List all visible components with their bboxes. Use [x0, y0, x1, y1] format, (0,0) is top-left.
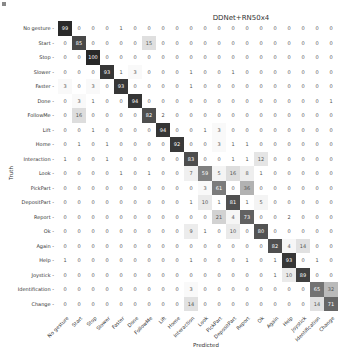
matrix-cell: 0	[226, 94, 240, 109]
matrix-cell: 0	[240, 50, 254, 65]
row-label: Change -	[31, 297, 54, 312]
matrix-cell: 0	[86, 65, 100, 80]
matrix-cell: 0	[142, 297, 156, 312]
matrix-cell: 0	[142, 123, 156, 138]
matrix-cell: 0	[198, 152, 212, 167]
matrix-cell: 2	[282, 210, 296, 225]
matrix-cell: 0	[72, 21, 86, 36]
matrix-cell: 0	[198, 210, 212, 225]
matrix-cell: 0	[240, 268, 254, 283]
matrix-cell: 0	[254, 181, 268, 196]
matrix-cell: 0	[86, 166, 100, 181]
matrix-cell: 0	[226, 123, 240, 138]
matrix-cell: 0	[86, 137, 100, 152]
matrix-cell: 3	[212, 137, 226, 152]
matrix-cell: 0	[72, 253, 86, 268]
matrix-cell: 0	[156, 94, 170, 109]
matrix-cell: 0	[72, 268, 86, 283]
matrix-cell: 0	[170, 108, 184, 123]
matrix-cell: 1	[184, 79, 198, 94]
row-label: Home -	[36, 137, 54, 152]
row-label: Identification -	[18, 282, 54, 297]
row-label: Interaction -	[23, 152, 54, 167]
matrix-cell: 0	[156, 239, 170, 254]
matrix-cell: 0	[198, 65, 212, 80]
matrix-cell: 0	[198, 253, 212, 268]
matrix-cell: 1	[240, 137, 254, 152]
matrix-cell: 0	[170, 195, 184, 210]
matrix-cell: 0	[212, 50, 226, 65]
matrix-cell: 0	[142, 137, 156, 152]
matrix-cell: 0	[212, 253, 226, 268]
matrix-cell: 0	[212, 36, 226, 51]
matrix-cell: 0	[128, 195, 142, 210]
row-label: Slower -	[34, 65, 54, 80]
matrix-cell: 0	[72, 123, 86, 138]
matrix-cell: 0	[128, 239, 142, 254]
matrix-cell: 0	[184, 239, 198, 254]
row-label: Look -	[39, 166, 54, 181]
matrix-cell: 0	[268, 224, 282, 239]
matrix-cell: 0	[324, 166, 338, 181]
matrix-cell: 0	[100, 195, 114, 210]
matrix-cell: 14	[310, 297, 324, 312]
matrix-cell: 0	[324, 36, 338, 51]
matrix-cell: 0	[240, 224, 254, 239]
matrix-cell: 0	[100, 181, 114, 196]
matrix-cell: 0	[324, 21, 338, 36]
matrix-cell: 0	[198, 79, 212, 94]
matrix-cell: 0	[254, 79, 268, 94]
matrix-cell: 1	[226, 65, 240, 80]
matrix-cell: 0	[268, 297, 282, 312]
matrix-cell: 0	[282, 94, 296, 109]
matrix-cell: 0	[240, 65, 254, 80]
row-label: Joystick -	[32, 268, 55, 283]
matrix-cell: 0	[296, 79, 310, 94]
row-label: Help -	[39, 253, 54, 268]
matrix-cell: 0	[254, 36, 268, 51]
matrix-cell: 0	[254, 137, 268, 152]
matrix-cell: 0	[254, 94, 268, 109]
matrix-cell: 0	[170, 268, 184, 283]
matrix-cell: 0	[254, 123, 268, 138]
matrix-cell: 1	[268, 268, 282, 283]
matrix-cell: 0	[72, 297, 86, 312]
matrix-cell: 0	[100, 297, 114, 312]
matrix-cell: 0	[324, 224, 338, 239]
matrix-cell: 0	[142, 282, 156, 297]
matrix-cell: 0	[226, 108, 240, 123]
matrix-cell: 0	[198, 50, 212, 65]
matrix-cell: 0	[142, 224, 156, 239]
matrix-cell: 0	[226, 268, 240, 283]
matrix-cell: 0	[86, 21, 100, 36]
matrix-cell: 0	[212, 79, 226, 94]
row-label: Ok -	[44, 224, 54, 239]
matrix-cell: 0	[170, 181, 184, 196]
matrix-cell: 0	[268, 181, 282, 196]
matrix-cell: 1	[226, 137, 240, 152]
matrix-cell: 0	[324, 268, 338, 283]
matrix-cell: 7	[184, 166, 198, 181]
matrix-cell: 0	[310, 36, 324, 51]
matrix-cell: 0	[198, 137, 212, 152]
matrix-cell: 4	[226, 210, 240, 225]
matrix-cell: 0	[128, 282, 142, 297]
matrix-cell: 1	[86, 123, 100, 138]
matrix-cell: 83	[184, 152, 198, 167]
matrix-cell: 0	[114, 253, 128, 268]
matrix-cell: 0	[226, 181, 240, 196]
matrix-cell: 0	[226, 79, 240, 94]
matrix-cell: 0	[268, 50, 282, 65]
row-label: Lift -	[43, 123, 54, 138]
matrix-cell: 0	[114, 123, 128, 138]
matrix-cell: 0	[100, 166, 114, 181]
matrix-cell: 0	[86, 253, 100, 268]
matrix-cell: 32	[324, 282, 338, 297]
matrix-cell: 0	[114, 224, 128, 239]
matrix-cell: 0	[72, 65, 86, 80]
matrix-cell: 0	[296, 166, 310, 181]
row-label: Report -	[34, 210, 54, 225]
matrix-cell: 0	[268, 166, 282, 181]
matrix-cell: 4	[282, 239, 296, 254]
matrix-cell: 94	[128, 94, 142, 109]
